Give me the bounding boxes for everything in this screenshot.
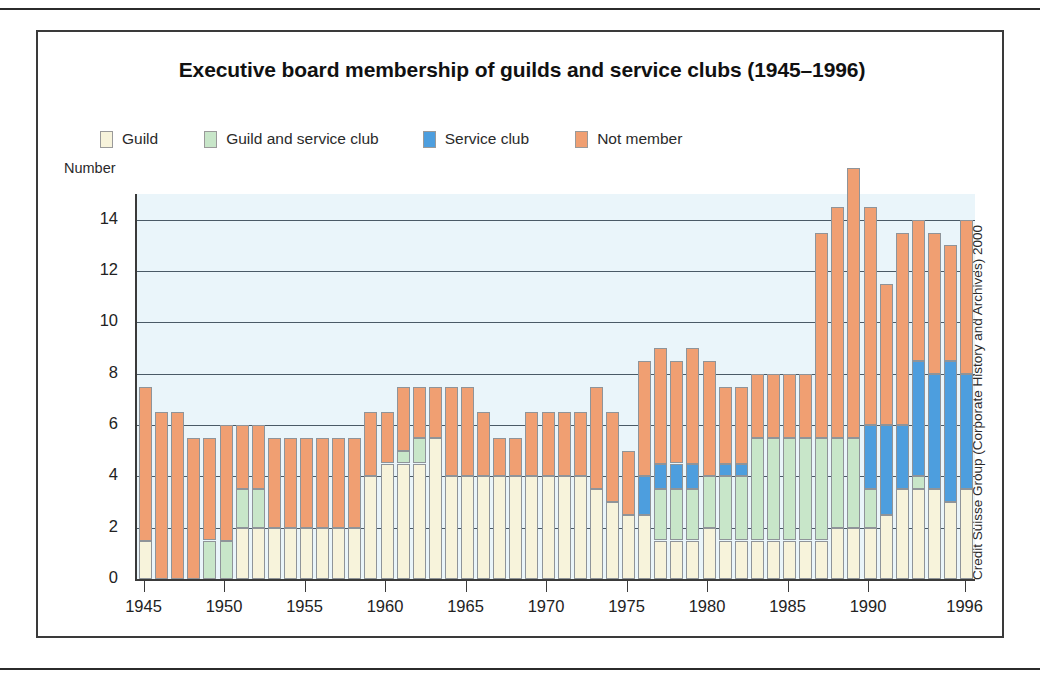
x-tick-label: 1996 — [930, 597, 1000, 616]
bar-segment — [397, 387, 410, 451]
bar-1949 — [203, 194, 216, 579]
bar-1990 — [864, 194, 877, 579]
bar-1964 — [445, 194, 458, 579]
bar-segment — [670, 489, 683, 540]
y-tick-label: 14 — [58, 209, 118, 228]
bar-segment — [654, 348, 667, 464]
bar-segment — [686, 348, 699, 464]
bar-segment — [622, 451, 635, 515]
bar-1970 — [542, 194, 555, 579]
bar-1968 — [509, 194, 522, 579]
chart-legend: GuildGuild and service clubService clubN… — [100, 130, 682, 148]
bar-segment — [590, 387, 603, 490]
bar-segment — [525, 412, 538, 476]
bar-1950 — [220, 194, 233, 579]
legend-item-guild-and-service-club: Guild and service club — [204, 130, 379, 148]
bar-segment — [397, 464, 410, 580]
bar-segment — [896, 425, 909, 489]
bar-segment — [880, 284, 893, 425]
legend-swatch-icon — [100, 131, 113, 148]
bar-1981 — [719, 194, 732, 579]
bar-segment — [606, 502, 619, 579]
bar-segment — [719, 476, 732, 540]
bar-segment — [654, 489, 667, 540]
bar-segment — [220, 541, 233, 580]
bar-segment — [703, 528, 716, 579]
bar-1989 — [847, 194, 860, 579]
bar-segment — [493, 476, 506, 579]
x-tick-label: 1985 — [753, 597, 823, 616]
bar-segment — [413, 438, 426, 464]
x-tick-label: 1950 — [189, 597, 259, 616]
bar-segment — [735, 464, 748, 477]
x-tick — [385, 579, 386, 592]
bar-segment — [509, 438, 522, 477]
bar-segment — [654, 541, 667, 580]
bar-segment — [654, 464, 667, 490]
bar-1979 — [686, 194, 699, 579]
bar-segment — [686, 464, 699, 490]
bar-1957 — [332, 194, 345, 579]
legend-swatch-icon — [575, 131, 588, 148]
bar-1975 — [622, 194, 635, 579]
x-tick — [627, 579, 628, 592]
bar-segment — [783, 374, 796, 438]
legend-label: Guild — [122, 130, 158, 148]
bar-segment — [928, 233, 941, 374]
bar-segment — [413, 464, 426, 580]
bar-segment — [622, 515, 635, 579]
bar-1976 — [638, 194, 651, 579]
bar-segment — [638, 361, 651, 477]
bar-1962 — [413, 194, 426, 579]
x-tick — [788, 579, 789, 592]
x-tick-label: 1990 — [833, 597, 903, 616]
bar-segment — [252, 489, 265, 528]
legend-label: Not member — [597, 130, 682, 148]
bar-segment — [912, 476, 925, 489]
bar-1972 — [574, 194, 587, 579]
credit-label: Credit Suisse Group (Corporate History a… — [970, 190, 985, 580]
bar-1955 — [300, 194, 313, 579]
bar-segment — [735, 387, 748, 464]
bar-segment — [670, 464, 683, 490]
bar-segment — [220, 425, 233, 541]
bar-segment — [461, 476, 474, 579]
bar-1954 — [284, 194, 297, 579]
bar-segment — [155, 412, 168, 579]
x-tick-label: 1945 — [109, 597, 179, 616]
legend-item-service-club: Service club — [423, 130, 529, 148]
bar-segment — [928, 374, 941, 490]
bar-1980 — [703, 194, 716, 579]
bar-1948 — [187, 194, 200, 579]
bar-1983 — [751, 194, 764, 579]
bar-segment — [815, 233, 828, 438]
bar-segment — [831, 528, 844, 579]
bar-1987 — [815, 194, 828, 579]
bar-segment — [783, 438, 796, 541]
bar-segment — [574, 412, 587, 476]
bar-segment — [670, 361, 683, 464]
bar-segment — [912, 220, 925, 361]
bar-segment — [880, 425, 893, 515]
bar-segment — [864, 207, 877, 425]
bar-segment — [284, 438, 297, 528]
x-tick — [546, 579, 547, 592]
bar-segment — [944, 502, 957, 579]
bar-1971 — [558, 194, 571, 579]
x-tick — [305, 579, 306, 592]
credit-text: Credit Suisse Group (Corporate History a… — [970, 190, 990, 580]
bar-segment — [300, 528, 313, 579]
bar-segment — [864, 528, 877, 579]
bar-segment — [332, 438, 345, 528]
bar-1994 — [928, 194, 941, 579]
bar-1985 — [783, 194, 796, 579]
bar-segment — [847, 528, 860, 579]
x-tick-label: 1955 — [270, 597, 340, 616]
bar-segment — [236, 528, 249, 579]
bar-segment — [590, 489, 603, 579]
bar-segment — [638, 476, 651, 515]
y-tick-label: 0 — [58, 568, 118, 587]
bar-segment — [558, 412, 571, 476]
y-tick-label: 10 — [58, 311, 118, 330]
bar-segment — [847, 438, 860, 528]
